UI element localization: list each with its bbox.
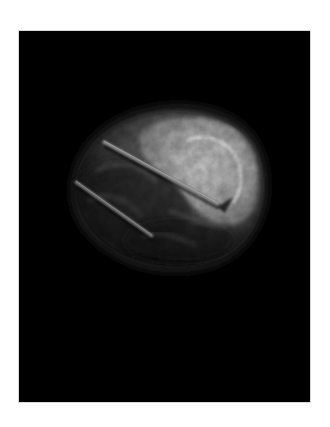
page [0,0,330,427]
image-frame [19,31,310,402]
volume-rendering-image [19,31,310,402]
